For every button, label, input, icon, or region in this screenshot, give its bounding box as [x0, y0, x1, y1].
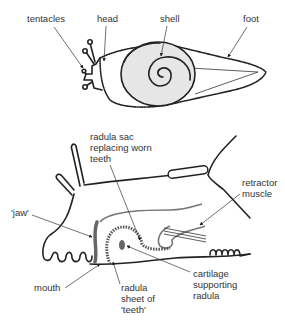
label-radula-sac: radula sac replacing worn teeth — [90, 131, 154, 164]
snail-section-drawing — [43, 136, 250, 264]
label-retractor-muscle: retractor muscle — [242, 177, 280, 199]
label-foot: foot — [243, 13, 259, 24]
label-mouth: mouth — [34, 282, 60, 293]
tentacle-upper — [71, 144, 84, 186]
snail-external-drawing — [82, 40, 266, 107]
label-cartilage: cartilage supporting radula — [193, 268, 240, 301]
cartilage-drawing — [119, 240, 125, 250]
label-tentacles: tentacles — [27, 13, 65, 24]
jaw-drawing — [95, 222, 97, 262]
label-jaw: 'jaw' — [11, 207, 29, 218]
retractor-muscle-drawing — [164, 228, 206, 242]
label-shell: shell — [160, 13, 180, 24]
tentacle-lower — [56, 174, 74, 195]
snail-diagram: tentacles head shell foot — [0, 0, 285, 325]
label-head: head — [97, 13, 118, 24]
label-radula: radula sheet of 'teeth' — [121, 282, 157, 315]
